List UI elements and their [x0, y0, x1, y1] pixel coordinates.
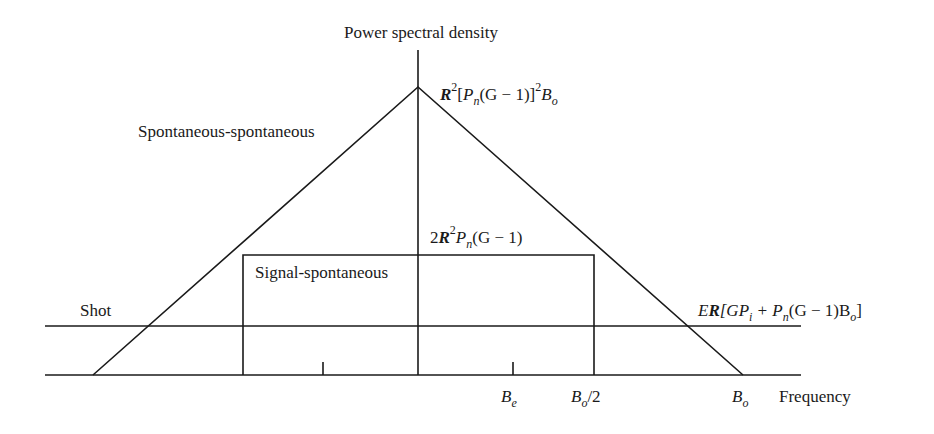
tick-label-bo-half: Bo/2	[571, 388, 601, 405]
shot-label: Shot	[80, 302, 111, 319]
x-axis-label: Frequency	[779, 388, 851, 405]
signal-spont-label: Signal-spontaneous	[255, 264, 388, 281]
signal-spont-level-formula: 2R2Pn(G − 1)	[430, 229, 522, 246]
tick-label-bo: Bo	[732, 388, 748, 405]
shot-level-formula: ER[GPi + Pn(G − 1)Bo]	[698, 302, 862, 319]
y-axis-label: Power spectral density	[344, 24, 498, 41]
spont-spont-label: Spontaneous-spontaneous	[138, 123, 315, 140]
peak-formula: R2[Pn(G − 1)]2Bo	[440, 86, 558, 103]
diagram-canvas	[0, 0, 934, 434]
tick-label-be: Be	[501, 388, 517, 405]
